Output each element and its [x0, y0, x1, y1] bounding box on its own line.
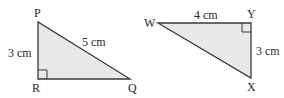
side-label-wy: 4 cm	[194, 9, 218, 21]
vertex-label-y: Y	[247, 8, 256, 20]
vertex-label-p: P	[34, 7, 41, 19]
triangles-diagram	[0, 0, 284, 98]
triangle-wyx	[158, 23, 251, 78]
vertex-label-q: Q	[128, 82, 137, 94]
side-label-pr: 3 cm	[8, 47, 32, 59]
vertex-label-x: X	[247, 81, 256, 93]
side-label-yx: 3 cm	[256, 45, 280, 57]
side-label-pq: 5 cm	[82, 36, 106, 48]
vertex-label-w: W	[144, 17, 155, 29]
vertex-label-r: R	[32, 82, 40, 94]
triangle-pqr	[38, 22, 130, 79]
